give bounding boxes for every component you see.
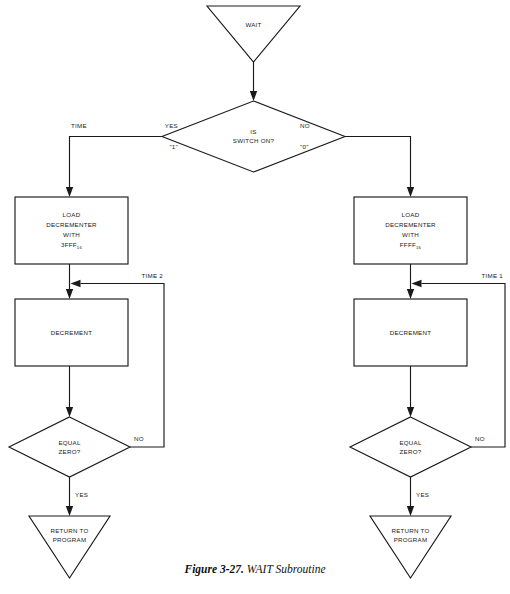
edge-decrement-right-to-zero <box>407 366 414 417</box>
return-right-line1: RETURN TO <box>391 527 429 534</box>
edge-label-zero-right-yes: YES <box>416 491 429 498</box>
load-left-subscript: 16 <box>77 245 83 250</box>
zero-right-line2: ZERO? <box>400 448 422 455</box>
edge-no-branch <box>345 137 414 198</box>
edge-label-time-1: TIME 1 <box>482 272 504 279</box>
edge-yes-branch <box>66 137 162 198</box>
node-decision-switch: IS SWITCH ON? <box>162 101 345 172</box>
edge-loop-right-merge-arrow <box>412 280 422 287</box>
edge-loop-left-merge-arrow <box>71 280 81 287</box>
node-load-left: LOAD DECREMENTER WITH 3FFF16 <box>15 197 128 264</box>
wait-label: WAIT <box>245 21 261 28</box>
figure-caption-title: WAIT Subroutine <box>247 563 326 575</box>
switch-label-line2: SWITCH ON? <box>233 137 275 144</box>
switch-label-line1: IS <box>250 128 256 135</box>
load-right-line2: DECREMENTER <box>385 221 436 228</box>
edge-label-zero-left-no: NO <box>134 435 144 442</box>
wait-triangle-shape <box>207 6 300 62</box>
edge-zero-left-yes <box>66 477 73 516</box>
zero-right-diamond-shape <box>350 417 471 477</box>
load-left-line1: LOAD <box>63 211 81 218</box>
node-zero-right: EQUAL ZERO? <box>350 417 471 477</box>
edge-zero-right-yes <box>407 477 414 516</box>
node-zero-left: EQUAL ZERO? <box>9 417 130 477</box>
edge-label-no: NO <box>300 122 310 129</box>
edge-load-right-to-decrement <box>407 264 414 299</box>
zero-left-diamond-shape <box>9 417 130 477</box>
load-left-value: 3FFF <box>61 241 77 248</box>
edge-label-time-2: TIME 2 <box>142 272 164 279</box>
edge-label-zero-right-no: NO <box>475 435 485 442</box>
node-decrement-right: DECREMENT <box>354 299 467 366</box>
load-right-subscript: 16 <box>416 245 422 250</box>
zero-left-line1: EQUAL <box>58 439 81 446</box>
load-right-line1: LOAD <box>402 211 420 218</box>
decrement-right-label: DECREMENT <box>390 329 431 336</box>
edge-label-zero-left-yes: YES <box>75 491 88 498</box>
edge-load-left-to-decrement <box>66 264 73 299</box>
flowchart-figure: WAIT IS SWITCH ON? TIME YES "1" NO "0" <box>0 0 510 594</box>
load-left-line3: WITH <box>63 231 80 238</box>
figure-caption: Figure 3-27. WAIT Subroutine <box>0 563 510 575</box>
node-decrement-left: DECREMENT <box>15 299 128 366</box>
zero-right-line1: EQUAL <box>399 439 422 446</box>
return-left-line2: PROGRAM <box>53 536 87 543</box>
zero-left-line2: ZERO? <box>59 448 81 455</box>
flowchart-canvas: WAIT IS SWITCH ON? TIME YES "1" NO "0" <box>0 0 510 594</box>
return-right-line2: PROGRAM <box>394 536 428 543</box>
node-load-right: LOAD DECREMENTER WITH FFFF16 <box>354 197 467 264</box>
return-left-line1: RETURN TO <box>50 527 88 534</box>
edge-label-yes-value: "1" <box>169 143 178 150</box>
edge-label-time-left: TIME <box>71 122 87 129</box>
load-left-line2: DECREMENTER <box>46 221 97 228</box>
load-right-value: FFFF <box>400 241 416 248</box>
figure-caption-label: Figure 3-27. <box>184 563 243 575</box>
load-right-line3: WITH <box>402 231 419 238</box>
edge-label-no-value: "0" <box>300 143 309 150</box>
node-wait-start: WAIT <box>207 6 300 62</box>
edge-start-to-decision <box>250 62 257 101</box>
decrement-left-label: DECREMENT <box>51 329 92 336</box>
edge-decrement-left-to-zero <box>66 366 73 417</box>
edge-label-yes: YES <box>165 122 178 129</box>
